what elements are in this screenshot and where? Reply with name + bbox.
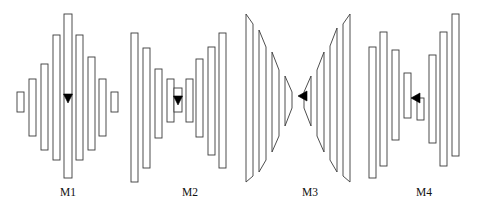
layer-bar bbox=[88, 57, 95, 150]
layer-bar bbox=[208, 47, 215, 155]
layer-bar bbox=[17, 92, 24, 112]
layer-trapezoid bbox=[330, 28, 337, 172]
layer-bar bbox=[131, 33, 138, 182]
model-label-m2: M2 bbox=[182, 186, 198, 198]
layer-bar bbox=[452, 14, 459, 156]
layer-bar bbox=[76, 35, 83, 160]
layer-bar bbox=[99, 79, 106, 136]
layer-bar bbox=[29, 79, 36, 136]
model-label-m4: M4 bbox=[416, 186, 432, 198]
figure-canvas: M1M2M3M4 bbox=[0, 0, 480, 210]
model-group-m2: M2 bbox=[131, 33, 226, 198]
left-arrow-m3 bbox=[298, 91, 307, 101]
architecture-diagram: M1M2M3M4 bbox=[0, 0, 480, 210]
layer-trapezoid bbox=[259, 30, 266, 172]
model-group-m3: M3 bbox=[246, 14, 350, 198]
layer-trapezoid bbox=[272, 52, 279, 152]
model-label-m3: M3 bbox=[302, 186, 318, 198]
layer-bar bbox=[41, 64, 48, 150]
layer-trapezoid bbox=[304, 76, 311, 126]
layer-trapezoid bbox=[317, 52, 324, 152]
layer-bar bbox=[429, 55, 436, 143]
layer-bar bbox=[53, 35, 60, 160]
layer-bar bbox=[167, 79, 174, 122]
layer-trapezoid bbox=[246, 14, 253, 182]
model-group-m1: M1 bbox=[17, 14, 118, 198]
layer-bar bbox=[380, 32, 387, 166]
layer-bar bbox=[392, 50, 399, 140]
layer-bar bbox=[143, 48, 150, 168]
model-group-m4: M4 bbox=[369, 14, 459, 198]
model-label-m1: M1 bbox=[60, 186, 76, 198]
layer-bar bbox=[186, 79, 193, 122]
layer-bar bbox=[219, 33, 226, 168]
layer-bar bbox=[196, 59, 203, 137]
left-arrow-m4 bbox=[411, 93, 420, 103]
layer-trapezoid bbox=[285, 76, 292, 126]
layer-bar bbox=[404, 73, 411, 118]
layer-bar bbox=[111, 92, 118, 112]
layer-bar bbox=[440, 32, 447, 166]
layer-trapezoid bbox=[343, 14, 350, 182]
layer-bar bbox=[155, 69, 162, 138]
layer-bar bbox=[369, 47, 376, 178]
